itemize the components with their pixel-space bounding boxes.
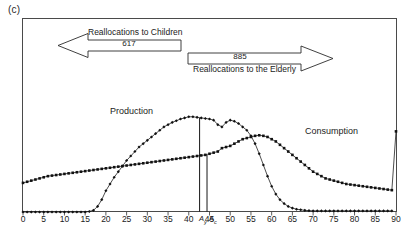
right-arrow-value: 885: [215, 52, 265, 61]
chart-panel: (c) 051015202530354045505560657075808590…: [0, 0, 410, 239]
left-arrow-value: 617: [104, 39, 154, 48]
chart-graphics: [0, 0, 410, 239]
x-tick-label: 90: [384, 214, 408, 224]
consumption-curve-label: Consumption: [305, 126, 358, 136]
mean-age-consumption-label: Ac: [209, 214, 217, 225]
right-arrow-title: Reallocations to the Elderly: [193, 64, 296, 74]
production-curve-label: Production: [110, 106, 153, 116]
mean-age-production-label: Ay: [199, 214, 207, 225]
left-arrow-title: Reallocations to Children: [88, 27, 183, 37]
mean-age-lines: [200, 118, 207, 212]
